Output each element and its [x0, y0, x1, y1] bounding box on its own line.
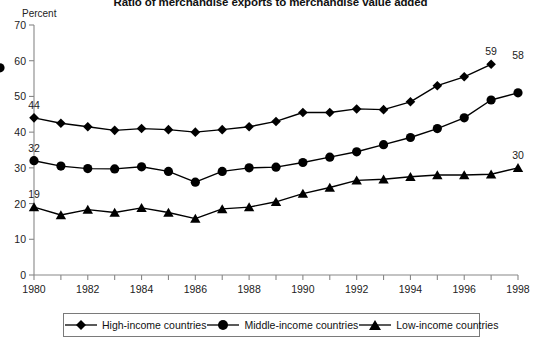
- legend-item-middle-income[interactable]: Middle-income countries: [206, 319, 358, 331]
- x-axis-tick-label: 1986: [175, 283, 215, 295]
- y-axis-tick-label: 70: [0, 19, 26, 31]
- diamond-marker-icon: [64, 319, 98, 331]
- x-axis-tick-label: 1992: [337, 283, 377, 295]
- x-axis-tick-label: 1980: [14, 283, 54, 295]
- x-axis-tick-label: 1990: [283, 283, 323, 295]
- circle-marker-icon: [206, 319, 240, 331]
- y-axis-tick-label: 30: [0, 162, 26, 174]
- x-axis-tick-label: 1996: [444, 283, 484, 295]
- x-axis-tick-label: 1998: [498, 283, 538, 295]
- legend-item-high-income[interactable]: High-income countries: [64, 319, 206, 331]
- y-axis-tick-label: 0: [0, 269, 26, 281]
- y-axis-label: Percent: [22, 8, 56, 19]
- chart-figure: Ratio of merchandise exports to merchand…: [0, 0, 541, 344]
- legend-item-low-income[interactable]: Low-income countries: [358, 319, 498, 331]
- x-axis-tick-label: 1988: [229, 283, 269, 295]
- data-point-label: 30: [512, 149, 524, 161]
- y-axis-tick-label: 60: [0, 55, 26, 67]
- y-axis-tick-label: 50: [0, 90, 26, 102]
- legend-label-low-income: Low-income countries: [396, 319, 498, 331]
- data-point-label: 32: [28, 142, 40, 154]
- chart-title: Ratio of merchandise exports to merchand…: [0, 0, 541, 8]
- data-point-label: 59: [485, 45, 497, 57]
- legend-label-high-income: High-income countries: [102, 319, 206, 331]
- chart-legend: High-income countries Middle-income coun…: [63, 313, 480, 337]
- data-point-label: 58: [512, 49, 524, 61]
- triangle-marker-icon: [358, 319, 392, 331]
- x-axis-tick-label: 1982: [68, 283, 108, 295]
- y-axis-tick-label: 20: [0, 198, 26, 210]
- y-axis-tick-label: 40: [0, 126, 26, 138]
- legend-label-middle-income: Middle-income countries: [244, 319, 358, 331]
- data-point-label: 19: [28, 188, 40, 200]
- data-point-label: 44: [28, 99, 40, 111]
- x-axis-tick-label: 1984: [122, 283, 162, 295]
- x-axis-tick-label: 1994: [390, 283, 430, 295]
- y-axis-tick-label: 10: [0, 233, 26, 245]
